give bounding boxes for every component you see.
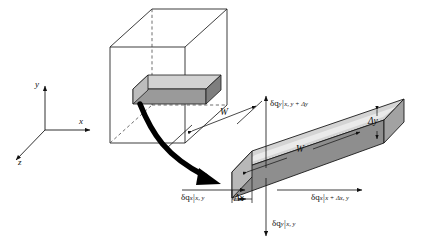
z-axis <box>16 130 45 160</box>
w-ext-line-left <box>167 125 192 148</box>
detail-length-label: W <box>296 145 304 155</box>
flux-x-left-subscript: x, y <box>195 194 204 201</box>
flux-x-right-symbol: δq <box>311 192 320 202</box>
detail-thickness-label: Δy <box>368 117 378 127</box>
axis-label-x: x <box>79 117 83 126</box>
flux-y-top-symbol: δq <box>270 98 279 108</box>
flux-label-x-right: δqx|x + Δx, y <box>311 193 349 202</box>
overview-width-label: W <box>220 108 228 118</box>
flux-y-top-bar: | <box>282 98 285 109</box>
detail-bar <box>232 99 404 198</box>
detail-width-label: Δx <box>234 194 244 204</box>
flux-y-bottom-symbol: δq <box>272 218 281 228</box>
flux-x-right-bar: | <box>323 192 326 203</box>
figure-canvas <box>0 0 421 243</box>
overview-bar <box>133 75 221 104</box>
flux-x-left-bar: | <box>193 192 196 203</box>
flux-y-top-subscript: x, y + Δy <box>284 100 308 107</box>
flux-label-x-left: δqx|x, y <box>181 193 204 202</box>
flux-x-left-symbol: δq <box>181 192 190 202</box>
flux-label-y-top: δqy|x, y + Δy <box>270 99 308 108</box>
flux-y-bottom-bar: | <box>284 218 287 229</box>
overview-width-dimension <box>167 101 262 148</box>
axis-label-y: y <box>35 80 39 89</box>
axis-label-z: z <box>18 158 22 167</box>
flux-x-right-subscript: x + Δx, y <box>325 194 349 201</box>
flux-label-y-bottom: δqy|x, y <box>272 219 295 228</box>
callout-arrow <box>140 104 221 185</box>
w-ext-line-right <box>237 101 262 124</box>
box-edge-top-right <box>185 9 227 47</box>
box-edge-top-left <box>110 9 152 47</box>
flux-y-bottom-subscript: x, y <box>286 220 295 227</box>
